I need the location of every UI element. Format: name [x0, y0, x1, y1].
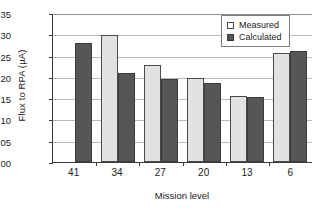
x-tick-label: 34 [95, 167, 138, 183]
bar-group [96, 14, 139, 162]
legend-item: Calculated [227, 31, 282, 43]
y-tick-mark [49, 163, 53, 164]
bar-measured [101, 35, 118, 162]
y-axis-title: Flux to RPA (µA) [16, 11, 27, 161]
bar-calculated [290, 51, 307, 162]
bar-group [183, 14, 226, 162]
legend-swatch-calculated [227, 34, 234, 41]
y-tick-label: 0.05 [0, 136, 11, 147]
x-axis-tick-labels: 41342720136 [52, 167, 312, 183]
x-tick-label: 6 [269, 167, 312, 183]
legend-swatch-measured [227, 22, 234, 29]
bar-measured [144, 65, 161, 162]
x-tick-mark [183, 162, 184, 166]
bar-measured [187, 78, 204, 162]
y-tick-label: 0.30 [0, 30, 11, 41]
bar-measured [273, 53, 290, 162]
chart-figure: Flux to RPA (µA) 0.000.050.100.150.200.2… [0, 0, 327, 213]
legend-label-calculated: Calculated [239, 32, 282, 42]
x-tick-label: 20 [182, 167, 225, 183]
legend: Measured Calculated [221, 15, 290, 47]
x-tick-mark [96, 162, 97, 166]
bar-calculated [247, 97, 264, 162]
legend-item: Measured [227, 19, 282, 31]
legend-label-measured: Measured [239, 20, 279, 30]
x-tick-mark [139, 162, 140, 166]
bar-calculated [118, 73, 135, 162]
x-tick-mark [226, 162, 227, 166]
y-tick-label: 0.15 [0, 94, 11, 105]
y-tick-label: 0.10 [0, 115, 11, 126]
x-tick-label: 13 [225, 167, 268, 183]
bar-measured [230, 96, 247, 162]
x-axis-title: Mission level [52, 190, 312, 201]
y-tick-label: 0.35 [0, 9, 11, 20]
x-tick-label: 41 [52, 167, 95, 183]
bar-calculated [75, 43, 92, 162]
y-tick-label: 0.00 [0, 158, 11, 169]
x-tick-mark [269, 162, 270, 166]
bar-calculated [161, 79, 178, 162]
y-tick-label: 0.20 [0, 72, 11, 83]
bar-group [139, 14, 182, 162]
x-tick-label: 27 [139, 167, 182, 183]
bar-group [53, 14, 96, 162]
y-tick-label: 0.25 [0, 51, 11, 62]
bar-calculated [204, 83, 221, 162]
